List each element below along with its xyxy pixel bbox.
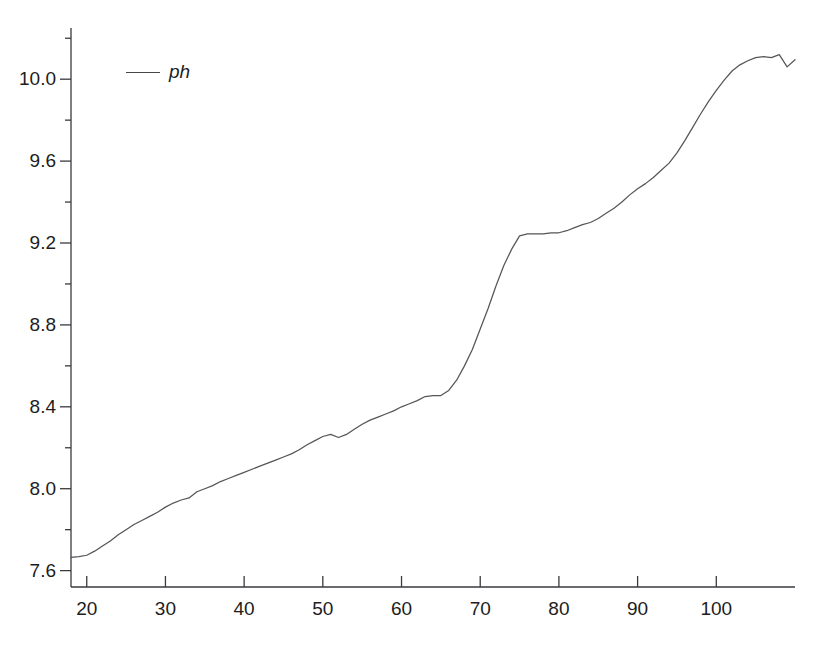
y-tick-label: 8.8 — [0, 314, 56, 336]
y-tick-label: 9.6 — [0, 150, 56, 172]
x-tick-label: 90 — [627, 598, 648, 620]
x-tick-label: 80 — [548, 598, 569, 620]
x-tick-label: 30 — [155, 598, 176, 620]
y-tick-label: 8.0 — [0, 478, 56, 500]
y-tick-label: 9.2 — [0, 232, 56, 254]
legend-line-swatch-ph — [126, 72, 160, 73]
x-tick-label: 100 — [700, 598, 732, 620]
x-tick-label: 60 — [391, 598, 412, 620]
y-tick-label: 7.6 — [0, 560, 56, 582]
y-tick-label: 8.4 — [0, 396, 56, 418]
figure-container: 7.68.08.48.89.29.610.0 20304050607080901… — [0, 0, 818, 651]
chart-legend: ph — [126, 60, 190, 84]
x-tick-label: 20 — [76, 598, 97, 620]
data-series-ph — [71, 55, 795, 558]
x-tick-label: 70 — [470, 598, 491, 620]
axes-group — [71, 28, 795, 587]
x-ticks-group — [87, 576, 717, 587]
x-tick-label: 40 — [234, 598, 255, 620]
y-tick-label: 10.0 — [0, 68, 56, 90]
legend-label-ph: ph — [169, 61, 190, 83]
y-ticks-group — [60, 38, 71, 570]
line-chart-plot — [0, 0, 818, 651]
x-tick-label: 50 — [312, 598, 333, 620]
